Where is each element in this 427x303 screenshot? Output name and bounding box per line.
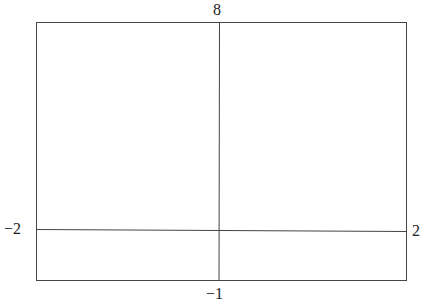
label-bottom: −1 <box>206 286 223 302</box>
label-top: 8 <box>213 2 221 18</box>
vertical-line <box>219 22 220 281</box>
label-left: −2 <box>4 221 21 237</box>
diagram-lines <box>0 0 427 303</box>
horizontal-line <box>36 230 407 232</box>
label-right: 2 <box>412 223 420 239</box>
